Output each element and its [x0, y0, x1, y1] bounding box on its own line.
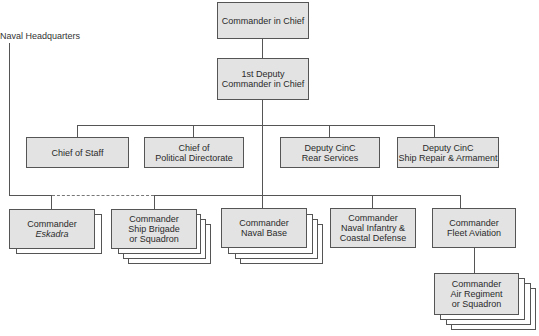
node-commander-fleet-aviation[interactable]: Commander Fleet Aviation [432, 208, 516, 248]
node-commander-naval-base[interactable]: Commander Naval Base [221, 208, 307, 248]
deputy-trunk-line [262, 100, 263, 209]
eskadra-brigade-dashed-line [52, 195, 154, 196]
hq-to-eskadra-line [9, 195, 51, 196]
node-label: Eskadra [35, 229, 68, 239]
cinc-to-deputy-line [262, 38, 263, 58]
node-commander-eskadra[interactable]: Commander Eskadra [9, 209, 95, 249]
node-chief-of-staff[interactable]: Chief of Staff [26, 137, 129, 168]
node-label: Chief of [178, 143, 209, 153]
node-label: or Squadron [452, 299, 502, 309]
drop-chief-staff [77, 125, 78, 137]
staff-bus-line [77, 125, 434, 126]
node-label: Commander [452, 279, 502, 289]
node-deputy-cinc-ship-repair[interactable]: Deputy CinC Ship Repair & Armament [397, 137, 499, 168]
node-1st-deputy-cinc[interactable]: 1st Deputy Commander in Chief [217, 58, 309, 100]
node-label: Political Directorate [155, 153, 233, 163]
node-label: Commander [348, 213, 398, 223]
eskadra-drop [51, 195, 52, 209]
node-label: 1st Deputy [241, 69, 284, 79]
node-label: Commander in Chief [222, 16, 305, 26]
node-commander-ship-brigade[interactable]: Commander Ship Brigade or Squadron [111, 209, 197, 249]
node-label: Air Regiment [450, 289, 502, 299]
node-label: or Squadron [129, 234, 179, 244]
node-label: Deputy CinC [304, 143, 355, 153]
node-commander-air-regiment[interactable]: Commander Air Regiment or Squadron [434, 273, 519, 315]
node-chief-political-directorate[interactable]: Chief of Political Directorate [144, 137, 244, 168]
node-deputy-cinc-rear-services[interactable]: Deputy CinC Rear Services [280, 137, 380, 168]
node-label: Rear Services [302, 153, 359, 163]
node-label: Commander in Chief [222, 79, 305, 89]
node-label: Ship Repair & Armament [398, 153, 497, 163]
node-label: Commander [27, 219, 77, 229]
node-label: Coastal Defense [340, 233, 407, 243]
node-label: Commander [239, 218, 289, 228]
drop-deputy-rear [329, 125, 330, 137]
node-label: Commander [449, 218, 499, 228]
node-label: Naval Base [241, 228, 287, 238]
node-label: Naval Infantry & [341, 223, 405, 233]
naval-headquarters-label: Naval Headquarters [0, 31, 80, 41]
node-label: Deputy CinC [422, 143, 473, 153]
drop-chief-political [193, 125, 194, 137]
drop-naval-base [262, 195, 263, 209]
node-label: Chief of Staff [52, 148, 104, 158]
drop-fleet-aviation [460, 195, 461, 209]
node-commander-naval-infantry[interactable]: Commander Naval Infantry & Coastal Defen… [330, 208, 416, 248]
org-chart: Naval Headquarters Commander in Chief 1s… [0, 0, 539, 336]
node-label: Ship Brigade [128, 224, 180, 234]
node-label: Commander [129, 214, 179, 224]
node-commander-in-chief[interactable]: Commander in Chief [217, 2, 309, 39]
aviation-to-air-regiment-line [474, 246, 475, 274]
drop-naval-infantry [372, 195, 373, 209]
hq-connector [9, 43, 10, 195]
command-bus-line [154, 195, 460, 196]
drop-ship-brigade [154, 195, 155, 209]
node-label: Fleet Aviation [447, 228, 501, 238]
drop-deputy-repair [434, 125, 435, 137]
